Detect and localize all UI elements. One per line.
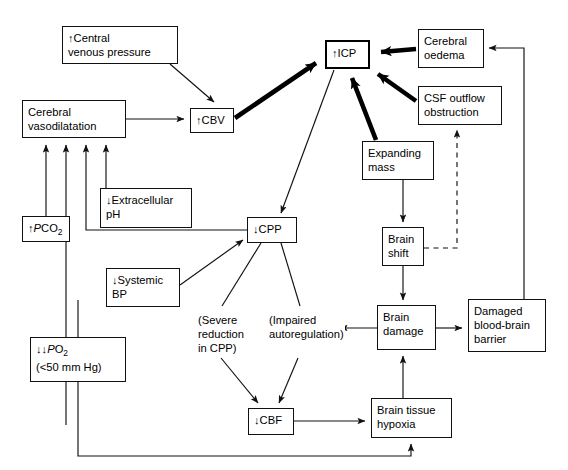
node-systemic-bp[interactable]: ↓SystemicBP — [106, 268, 180, 307]
node-brain-shift[interactable]: Brainshift — [382, 227, 424, 266]
edge-severe-reduction-to-cbf — [221, 358, 258, 403]
node-cpp[interactable]: ↓CPP — [247, 217, 297, 243]
node-cerebral-oedema[interactable]: Cerebraloedema — [418, 29, 484, 68]
node-brain-damage[interactable]: Braindamage — [377, 305, 436, 350]
edge-cbv-to-icp — [235, 63, 316, 118]
edge-systemic-bp-to-cpp — [180, 240, 243, 285]
edge-expanding-mass-to-icp — [352, 78, 376, 140]
node-cbf[interactable]: ↓CBF — [248, 408, 294, 435]
edge-cvp-to-cbv — [170, 64, 214, 102]
edge-cpp-to-severe-reduction — [222, 243, 261, 306]
edge-po2-to-brain-tissue-hypoxia — [78, 382, 411, 456]
node-extracellular-ph[interactable]: ↓ExtracellularpH — [100, 188, 192, 228]
label-impaired-autoregulation: (Impairedautoregulation) — [268, 313, 345, 341]
node-po2[interactable]: ↓↓PO2(<50 mm Hg) — [30, 337, 126, 382]
edge-icp-to-cpp — [281, 70, 334, 213]
edge-cpp-to-impaired-autoregulation — [281, 243, 300, 306]
edge-impaired-autoregulation-to-cbf — [279, 358, 298, 403]
edge-csf-to-icp — [378, 74, 416, 101]
node-icp[interactable]: ↑ICP — [325, 40, 370, 69]
edge-oedema-to-icp — [381, 49, 416, 52]
node-pco2[interactable]: ↑PCO2 — [22, 216, 70, 242]
flowchart-diagram: ↑Centralvenous pressure Cerebralvasodila… — [0, 0, 568, 470]
node-brain-tissue-hypoxia[interactable]: Brain tissuehypoxia — [371, 398, 452, 438]
node-csf-outflow-obstruction[interactable]: CSF outflowobstruction — [418, 86, 502, 125]
node-damaged-blood-brain-barrier[interactable]: Damagedblood-brainbarrier — [468, 299, 546, 352]
node-expanding-mass[interactable]: Expandingmass — [362, 141, 434, 180]
node-central-venous-pressure[interactable]: ↑Centralvenous pressure — [62, 26, 178, 64]
node-cerebral-vasodilatation[interactable]: Cerebralvasodilatation — [22, 100, 126, 138]
label-severe-reduction-in-cpp: (Severereductionin CPP) — [197, 313, 245, 356]
node-cbv[interactable]: ↑CBV — [190, 108, 234, 133]
